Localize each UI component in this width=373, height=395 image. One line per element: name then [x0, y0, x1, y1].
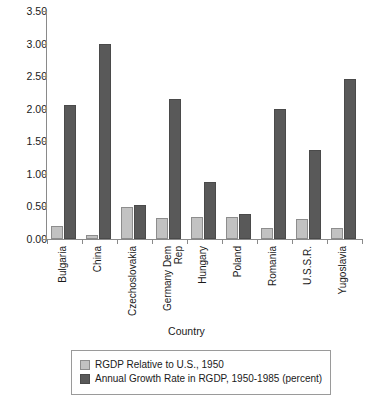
x-axis-tick-mark [187, 239, 188, 244]
x-axis-tick-mark [152, 239, 153, 244]
legend-item-rgdp-relative: RGDP Relative to U.S., 1950 [80, 359, 322, 370]
bar [51, 226, 63, 239]
bar [274, 109, 286, 239]
bar [121, 207, 133, 239]
bar-group [327, 11, 362, 239]
bar [204, 182, 216, 239]
y-axis-tick-label: 1.50 [3, 136, 47, 146]
bar-group [222, 11, 257, 239]
x-axis-category-label: Bulgaria [58, 246, 69, 324]
bar [169, 99, 181, 239]
x-axis-tick-mark [47, 239, 48, 244]
bar [331, 228, 343, 239]
legend-item-growth-rate: Annual Growth Rate in RGDP, 1950-1985 (p… [80, 373, 322, 384]
chart-legend: RGDP Relative to U.S., 1950 Annual Growt… [71, 350, 331, 395]
bar [134, 205, 146, 239]
legend-label-dark: Annual Growth Rate in RGDP, 1950-1985 (p… [95, 373, 322, 384]
bar [239, 214, 251, 239]
bar [191, 217, 203, 239]
y-axis-tick-label: 2.00 [3, 104, 47, 114]
bar [86, 235, 98, 239]
x-axis-category-label: China [93, 246, 104, 324]
bar-group [152, 11, 187, 239]
x-axis-line [46, 239, 362, 240]
bar-group [292, 11, 327, 239]
y-axis-tick-label: 0.50 [3, 201, 47, 211]
x-axis-tick-mark [222, 239, 223, 244]
x-axis-category-label: Romania [268, 246, 279, 324]
x-axis-tick-mark [362, 239, 363, 244]
x-axis-title: Country [0, 325, 373, 337]
y-axis-tick-label: 2.50 [3, 71, 47, 81]
x-axis-category-label: Hungary [198, 246, 209, 324]
x-axis-category-label: Germany Dem Rep [163, 246, 184, 324]
x-axis-tick-mark [327, 239, 328, 244]
bar [226, 217, 238, 239]
bar [296, 219, 308, 239]
bar [309, 150, 321, 239]
y-axis-tick-label: 3.00 [3, 39, 47, 49]
plot-area [47, 11, 362, 239]
bar-group [82, 11, 117, 239]
legend-label-light: RGDP Relative to U.S., 1950 [95, 359, 224, 370]
x-axis-category-label: Czechoslovakia [128, 246, 139, 324]
bar [99, 44, 111, 239]
bar-group [187, 11, 222, 239]
x-axis-tick-mark [117, 239, 118, 244]
legend-swatch-icon-light [80, 360, 90, 370]
bar [261, 228, 273, 239]
y-axis-tick-label: 1.00 [3, 169, 47, 179]
x-axis-tick-mark [292, 239, 293, 244]
x-axis-tick-mark [257, 239, 258, 244]
bar-group [117, 11, 152, 239]
bar [156, 218, 168, 239]
legend-swatch-icon-dark [80, 374, 90, 384]
x-axis-category-label: U.S.S.R. [303, 246, 314, 324]
x-axis-tick-mark [82, 239, 83, 244]
y-axis-tick-label: 0.00 [3, 234, 47, 244]
bar-group [47, 11, 82, 239]
y-axis-tick-label: 3.50 [3, 6, 47, 16]
x-axis-category-label: Yugoslavia [338, 246, 349, 324]
x-axis-category-label: Poland [233, 246, 244, 324]
bar-group [257, 11, 292, 239]
bar [64, 105, 76, 239]
bar [344, 79, 356, 239]
y-axis: 0.000.501.001.502.002.503.003.50 [0, 0, 47, 251]
